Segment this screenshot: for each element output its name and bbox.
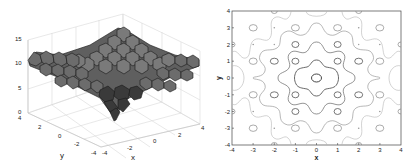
y-tick--2: -2 [74,141,80,147]
surface-plot: 15 10 5 0 4 2 0 -2 -4 y -4 -2 0 2 4 x [0,0,210,168]
y-axis-label: y [60,151,64,160]
y-axis-label: y [215,76,223,80]
y-tick: 4 [227,8,231,14]
contour-plot-svg: -4 -3 -2 -1 0 1 2 3 4 x 4 3 2 1 0 -1 -2 … [210,0,419,168]
x-tick-2: 2 [178,132,182,138]
x-tick--4: -4 [102,150,108,156]
y-tick-0: 0 [58,133,62,139]
x-tick-0: 0 [153,138,157,144]
z-tick-15: 15 [15,36,22,42]
x-tick: 1 [336,147,340,153]
surface-plot-svg: 15 10 5 0 4 2 0 -2 -4 y -4 -2 0 2 4 x [0,0,210,168]
x-tick: 4 [399,147,403,153]
y-tick: -2 [225,109,231,115]
x-axis-label: x [315,154,319,161]
x-tick: 2 [357,147,361,153]
y-tick--4: -4 [91,150,97,156]
y-tick-labels: 4 3 2 1 0 -1 -2 -3 -4 [225,8,231,148]
surface-mesh [28,27,199,121]
x-tick: -1 [293,147,299,153]
x-axis-label: x [131,153,135,162]
y-tick: -4 [225,142,231,148]
z-tick-5: 5 [18,85,22,91]
z-axis: 15 10 5 0 [15,36,28,115]
x-axis: -4 -2 0 2 4 x [101,124,205,162]
y-tick-4: 4 [18,115,22,121]
y-tick: 0 [227,75,231,81]
x-tick-4: 4 [201,125,205,131]
y-tick: 1 [227,58,231,64]
x-tick: 3 [378,147,382,153]
y-tick: -1 [225,92,231,98]
x-tick: 0 [315,147,319,153]
contour-plot: -4 -3 -2 -1 0 1 2 3 4 x 4 3 2 1 0 -1 -2 … [210,0,419,168]
x-tick--2: -2 [127,145,133,151]
x-tick: -2 [272,147,278,153]
y-axis: 4 2 0 -2 -4 y [18,113,101,160]
y-tick-2: 2 [38,124,42,130]
z-tick-10: 10 [15,60,22,66]
x-tick-labels: -4 -3 -2 -1 0 1 2 3 4 [229,147,403,153]
y-tick: 2 [227,42,231,48]
x-tick: -4 [229,147,235,153]
x-tick: -3 [250,147,256,153]
y-tick: 3 [227,25,231,31]
y-tick: -3 [225,125,231,131]
plot-frame [232,11,401,145]
